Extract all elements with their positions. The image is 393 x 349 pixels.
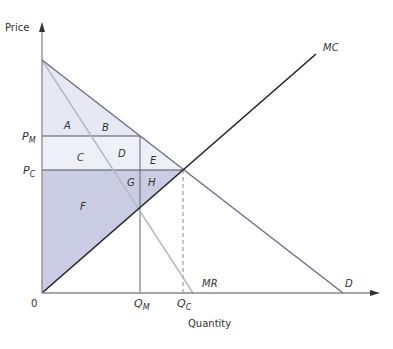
mr-label: MR <box>202 278 218 289</box>
region-label-f: F <box>80 201 86 212</box>
d-label: D <box>345 278 353 289</box>
qm-label: QM <box>134 297 150 312</box>
region-label-g: G <box>127 177 135 188</box>
mc-label: MC <box>323 42 339 53</box>
region-label-a: A <box>63 120 71 131</box>
region-label-d: D <box>118 148 126 159</box>
qc-label: QC <box>177 297 192 312</box>
region-label-e: E <box>150 155 157 166</box>
y-axis-label: Price <box>5 22 29 33</box>
pc-label: PC <box>23 164 36 179</box>
region-label-c: C <box>77 152 84 163</box>
x-axis-arrow-icon <box>370 290 380 296</box>
pm-label: PM <box>22 130 36 145</box>
region-label-b: B <box>102 122 109 133</box>
y-axis-arrow-icon <box>39 22 45 32</box>
region-label-h: H <box>148 177 156 188</box>
x-axis-label: Quantity <box>188 318 231 329</box>
monopoly-welfare-chart: Price Quantity 0 PM PC QM QC MC MR D A B… <box>0 0 393 349</box>
origin-label: 0 <box>31 298 37 309</box>
